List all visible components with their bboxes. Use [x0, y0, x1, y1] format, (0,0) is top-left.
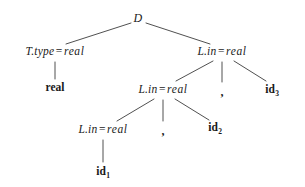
node-label: ,	[221, 85, 224, 99]
node-attribute-name: L.in	[197, 45, 216, 57]
tree-node-id1: id1	[96, 166, 109, 178]
tree-node-real: real	[46, 82, 65, 94]
node-label: id	[265, 83, 275, 95]
annotated-parse-tree-figure: DT.type=realL.in=realrealL.in=real,id3L.…	[0, 0, 305, 187]
node-attribute-value: real	[64, 45, 85, 57]
node-attribute-name: T.type	[26, 45, 55, 57]
node-attribute-value: real	[107, 123, 128, 135]
tree-node-comma2: ,	[162, 125, 165, 137]
node-equals-sign: =	[157, 83, 167, 95]
node-equals-sign: =	[216, 45, 226, 57]
tree-edge-lin2-to-id2	[175, 99, 209, 120]
node-subscript: 2	[218, 127, 222, 136]
node-attribute-name: L.in	[138, 83, 157, 95]
tree-node-lin3: L.in=real	[78, 124, 127, 136]
tree-edge-lin1-to-id3	[234, 61, 266, 81]
node-attribute-name: L.in	[78, 123, 97, 135]
node-attribute-value: real	[226, 45, 247, 57]
tree-node-id2: id2	[208, 122, 221, 134]
tree-edge-root-to-ttype	[66, 23, 131, 44]
tree-node-lin2: L.in=real	[138, 84, 187, 96]
node-label: real	[46, 81, 65, 93]
tree-edge-lin1-to-lin2	[176, 61, 213, 81]
tree-node-lin1: L.in=real	[197, 46, 246, 58]
node-equals-sign: =	[97, 123, 107, 135]
node-subscript: 1	[106, 171, 110, 180]
node-label: id	[208, 121, 218, 133]
tree-edge-lin2-to-lin3	[117, 99, 154, 121]
tree-edge-root-to-lin1	[146, 23, 210, 44]
node-subscript: 3	[275, 89, 279, 98]
node-label: D	[134, 11, 143, 25]
node-attribute-value: real	[167, 83, 188, 95]
node-label: id	[96, 165, 106, 177]
tree-node-comma1: ,	[221, 86, 224, 98]
tree-node-ttype: T.type=real	[26, 46, 85, 58]
tree-node-id3: id3	[265, 84, 278, 96]
node-label: ,	[162, 124, 165, 138]
tree-node-root: D	[134, 12, 143, 24]
